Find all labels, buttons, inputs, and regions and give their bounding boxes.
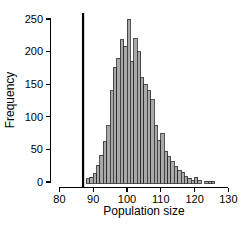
histogram-bar: [147, 91, 150, 183]
histogram-bar: [171, 162, 174, 183]
histogram-bar: [117, 58, 120, 183]
x-axis-label: Population size: [103, 204, 184, 218]
y-tick-label: 50: [31, 143, 43, 155]
histogram-bar: [130, 61, 133, 183]
histogram-bar: [188, 178, 191, 183]
histogram-bar: [161, 133, 164, 183]
histogram-chart: 0501001502002508090100110120130: [0, 0, 247, 234]
histogram-bar: [208, 181, 211, 183]
histogram-bar: [191, 180, 194, 183]
y-tick-label: 250: [25, 13, 43, 25]
histogram-bar: [141, 78, 144, 183]
histogram-bar: [195, 177, 198, 183]
histogram-bar: [90, 177, 93, 183]
histogram-bar: [151, 100, 154, 183]
y-tick-label: 100: [25, 111, 43, 123]
histogram-bar: [184, 177, 187, 183]
x-tick-label: 90: [87, 193, 99, 205]
histogram-bar: [103, 142, 106, 183]
histogram-bar: [137, 52, 140, 183]
histogram-bar: [107, 126, 110, 183]
x-tick-label: 100: [118, 193, 136, 205]
histogram-bar: [120, 40, 123, 183]
histogram-bar: [144, 84, 147, 183]
histogram-bar: [198, 180, 201, 183]
histogram-bar: [110, 91, 113, 183]
y-axis-label: Frequency: [3, 72, 17, 129]
y-tick-label: 0: [37, 176, 43, 188]
histogram-bar: [178, 170, 181, 183]
histogram-bar: [205, 181, 208, 183]
histogram-bar: [154, 125, 157, 183]
histogram-bar: [113, 68, 116, 183]
histogram-bar: [212, 181, 215, 183]
histogram-bar: [157, 140, 160, 183]
histogram-bar: [93, 174, 96, 183]
histogram-figure: 0501001502002508090100110120130 Frequenc…: [0, 0, 247, 234]
histogram-bar: [134, 39, 137, 183]
histogram-bar: [181, 172, 184, 183]
histogram-bar: [127, 19, 130, 183]
histogram-bar: [174, 166, 177, 183]
y-tick-label: 150: [25, 78, 43, 90]
histogram-bar: [124, 46, 127, 183]
x-tick-label: 110: [152, 193, 170, 205]
y-tick-label: 200: [25, 45, 43, 57]
x-tick-label: 120: [185, 193, 203, 205]
x-tick-label: 130: [219, 193, 237, 205]
histogram-bar: [168, 157, 171, 183]
histogram-bar: [100, 155, 103, 183]
histogram-bar: [86, 179, 89, 183]
x-tick-label: 80: [53, 193, 65, 205]
histogram-bar: [164, 151, 167, 183]
histogram-bar: [97, 165, 100, 183]
